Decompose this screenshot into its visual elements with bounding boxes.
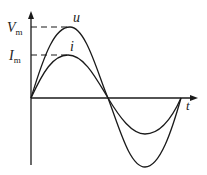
- y-axis: [28, 11, 34, 165]
- voltage-curve-u: [31, 27, 181, 167]
- x-axis-arrow-icon: [190, 95, 198, 101]
- curve-label-i: i: [70, 39, 74, 54]
- x-axis-label-t: t: [186, 98, 190, 113]
- y-axis-arrow-icon: [28, 11, 34, 19]
- im-label: Im: [8, 48, 21, 65]
- sine-waveform-diagram: Vm Im u i t: [0, 0, 207, 175]
- vm-label: Vm: [7, 20, 23, 37]
- current-curve-i: [31, 55, 181, 134]
- curve-label-u: u: [73, 10, 80, 25]
- x-axis: [31, 95, 198, 101]
